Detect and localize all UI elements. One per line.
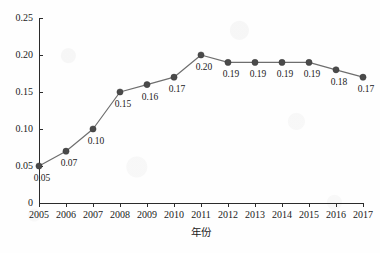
chart-figure: 00.050.100.150.200.25 200520062007200820… [0,0,380,253]
y-tick-label: 0.15 [0,87,33,97]
point-value-label: 0.16 [137,92,163,102]
y-tick-label: 0.10 [0,124,33,134]
point-value-label: 0.19 [218,69,244,79]
point-value-label: 0.07 [56,158,82,168]
y-tick-label: 0 [0,198,33,208]
x-tick-label: 2017 [347,210,379,220]
point-value-label: 0.19 [299,69,325,79]
point-value-label: 0.18 [326,77,352,87]
point-value-label: 0.19 [245,69,271,79]
point-value-label: 0.10 [83,136,109,146]
point-value-label: 0.17 [353,84,379,94]
y-tick-label: 0.25 [0,13,33,23]
point-value-label: 0.17 [164,84,190,94]
point-value-label: 0.19 [272,69,298,79]
point-value-label: 0.15 [110,99,136,109]
point-value-label: 0.20 [191,62,217,72]
y-tick-label: 0.05 [0,161,33,171]
chart-axes [39,18,363,207]
y-tick-label: 0.20 [0,50,33,60]
point-value-label: 0.05 [29,173,55,183]
x-axis-title: 年份 [161,226,241,238]
